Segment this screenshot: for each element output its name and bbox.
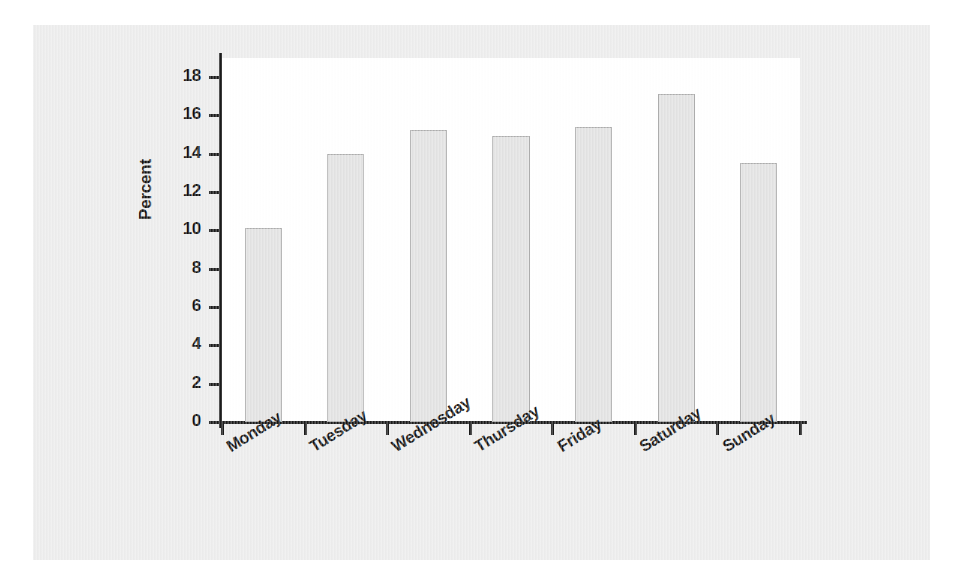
bar [740, 163, 777, 422]
bar [410, 130, 447, 422]
y-tick-label: 18 [161, 66, 201, 86]
y-tick-label: 6 [161, 296, 201, 316]
x-tick-mark [634, 423, 637, 435]
y-tick-mark [209, 306, 220, 309]
y-tick-label: 10 [161, 219, 201, 239]
x-tick-mark [716, 423, 719, 435]
y-tick-label: 14 [161, 143, 201, 163]
bar [492, 136, 529, 422]
y-tick-mark [209, 76, 220, 79]
bar [658, 94, 695, 422]
bar [575, 127, 612, 422]
y-tick-label: 2 [161, 373, 201, 393]
y-tick-mark [209, 114, 220, 117]
x-tick-mark [551, 423, 554, 435]
y-tick-label: 16 [161, 104, 201, 124]
x-tick-mark [304, 423, 307, 435]
y-tick-label: 0 [161, 411, 201, 431]
y-tick-mark [209, 191, 220, 194]
y-axis-spine [219, 53, 222, 428]
y-tick-mark [209, 153, 220, 156]
y-tick-mark [209, 344, 220, 347]
y-axis-title: Percent [136, 159, 156, 220]
x-tick-mark [799, 423, 802, 435]
y-tick-label: 8 [161, 258, 201, 278]
y-tick-mark [209, 229, 220, 232]
y-tick-mark [209, 268, 220, 271]
y-tick-label: 12 [161, 181, 201, 201]
y-tick-mark [209, 383, 220, 386]
figure-panel: Percent 024681012141618 MondayTuesdayWed… [33, 25, 930, 560]
y-tick-mark [209, 421, 220, 424]
x-tick-mark [469, 423, 472, 435]
x-tick-mark [386, 423, 389, 435]
bar [327, 154, 364, 422]
bar [245, 228, 282, 422]
y-tick-label: 4 [161, 334, 201, 354]
x-tick-mark [221, 423, 224, 435]
